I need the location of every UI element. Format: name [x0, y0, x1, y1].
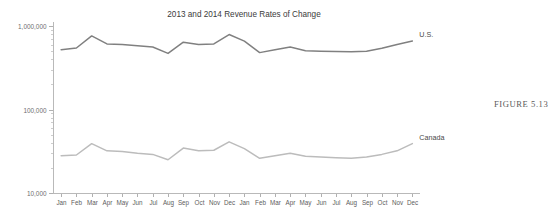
series-end-labels-group: U.S.Canada: [419, 30, 444, 142]
x-axis-tick-label: Feb: [255, 199, 266, 206]
chart-canvas: 2013 and 2014 Revenue Rates of Change 1,…: [0, 0, 480, 217]
x-axis-tick-label: Sep: [362, 199, 374, 207]
series-line-canada: [61, 142, 412, 160]
x-axis-tick-label: Dec: [407, 199, 418, 206]
x-axis-ticks: [62, 194, 413, 198]
y-axis-tick-labels: 1,000,000100,00010,000: [18, 23, 47, 197]
line-chart: 2013 and 2014 Revenue Rates of Change 1,…: [0, 0, 480, 217]
x-axis-tick-label: Jan: [239, 199, 250, 206]
x-axis-tick-label: Jul: [149, 199, 157, 206]
x-axis-tick-label: Nov: [392, 199, 404, 206]
x-axis-tick-label: Feb: [71, 199, 82, 206]
x-axis-tick-label: Oct: [195, 199, 205, 206]
x-axis-tick-label: Nov: [209, 199, 221, 206]
series-label-canada: Canada: [419, 133, 444, 142]
x-axis-tick-label: Aug: [163, 199, 175, 207]
x-axis-tick-label: Aug: [346, 199, 358, 207]
x-axis-tick-label: Apr: [103, 199, 113, 207]
x-axis-tick-label: Jun: [132, 199, 143, 206]
x-axis-tick-label: Jul: [332, 199, 340, 206]
x-axis-tick-label: Dec: [224, 199, 235, 206]
x-axis-tick-label: Sep: [178, 199, 190, 207]
x-axis-tick-label: May: [117, 199, 130, 207]
x-axis-tick-label: Mar: [87, 199, 98, 206]
y-axis-tick-label: 100,000: [23, 107, 47, 114]
chart-title: 2013 and 2014 Revenue Rates of Change: [167, 10, 321, 19]
figure-caption: FIGURE 5.13: [494, 99, 548, 109]
x-axis-tick-label: Jan: [56, 199, 67, 206]
y-axis-tick-label: 10,000: [27, 190, 47, 197]
x-axis-tick-label: May: [300, 199, 313, 207]
x-axis-tick-labels: JanFebMarAprMayJunJulAugSepOctNovDecJanF…: [56, 199, 418, 207]
series-lines-group: [61, 35, 412, 160]
x-axis-tick-label: Apr: [286, 199, 296, 207]
series-label-us: U.S.: [419, 30, 433, 39]
x-axis-tick-label: Jun: [316, 199, 327, 206]
x-axis-tick-label: Oct: [378, 199, 388, 206]
x-axis-tick-label: Mar: [270, 199, 281, 206]
series-line-us: [61, 35, 412, 54]
figure-container: 2013 and 2014 Revenue Rates of Change 1,…: [0, 0, 559, 217]
y-axis-tick-label: 1,000,000: [18, 23, 47, 30]
